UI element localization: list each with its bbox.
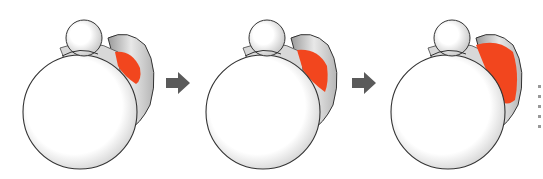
vertebra-illustration	[0, 0, 175, 179]
stage-3-vertebra	[368, 0, 543, 179]
vertebra-illustration	[368, 0, 543, 179]
stage-1-vertebra	[0, 0, 175, 179]
truncated-edge-text	[537, 85, 543, 145]
stage-2-vertebra	[183, 0, 358, 179]
vertebra-illustration	[183, 0, 358, 179]
